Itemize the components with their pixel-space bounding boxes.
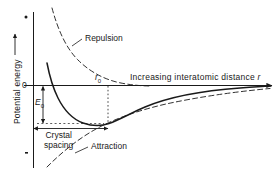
equilibrium-subscript: 0: [98, 78, 101, 84]
x-axis-label-text: Increasing interatomic distance: [130, 72, 258, 82]
attraction-label: Attraction: [91, 142, 127, 151]
potential-energy-diagram: Potential energy 0 E0 r0 Repulsion Attra…: [0, 0, 280, 171]
repulsion-leader-line: [72, 39, 82, 46]
x-axis-label-variable: r: [258, 72, 261, 82]
crystal-spacing-label: Crystal spacing: [44, 131, 73, 151]
attraction-leader-line: [75, 147, 88, 153]
y-axis-label: Potential energy: [13, 59, 22, 124]
binding-energy-subscript: 0: [41, 103, 44, 109]
y-axis-bottom-dot-icon: [25, 152, 28, 154]
x-axis-label: Increasing interatomic distance r: [130, 73, 261, 82]
crystal-spacing-line2: spacing: [44, 141, 73, 151]
zero-tick-label: 0: [22, 81, 27, 90]
binding-energy-label: E0: [35, 98, 44, 109]
y-axis-top-dot-icon: [25, 16, 28, 19]
repulsion-label: Repulsion: [85, 34, 123, 43]
attraction-curve: [47, 89, 270, 168]
equilibrium-distance-label: r0: [95, 73, 101, 84]
diagram-canvas: [0, 0, 280, 171]
